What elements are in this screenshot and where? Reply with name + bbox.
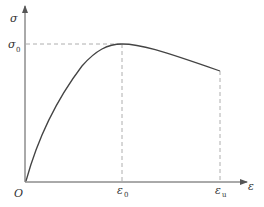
svg-text:0: 0 (16, 46, 20, 54)
origin-label: O (14, 187, 23, 200)
svg-text:u: u (222, 191, 227, 199)
svg-text:σ: σ (8, 38, 16, 51)
svg-text:0: 0 (124, 191, 128, 199)
peak-stress-label: σ 0 (8, 38, 20, 54)
y-axis-label: σ (10, 12, 18, 25)
svg-text:ε: ε (215, 184, 221, 197)
svg-text:ε: ε (117, 184, 123, 197)
stress-strain-curve (26, 44, 220, 181)
stress-strain-diagram: σ σ 0 O ε 0 ε u ε (0, 0, 264, 207)
peak-strain-label: ε 0 (117, 184, 128, 199)
x-axis-label: ε (248, 180, 254, 193)
ultimate-strain-label: ε u (215, 184, 227, 199)
